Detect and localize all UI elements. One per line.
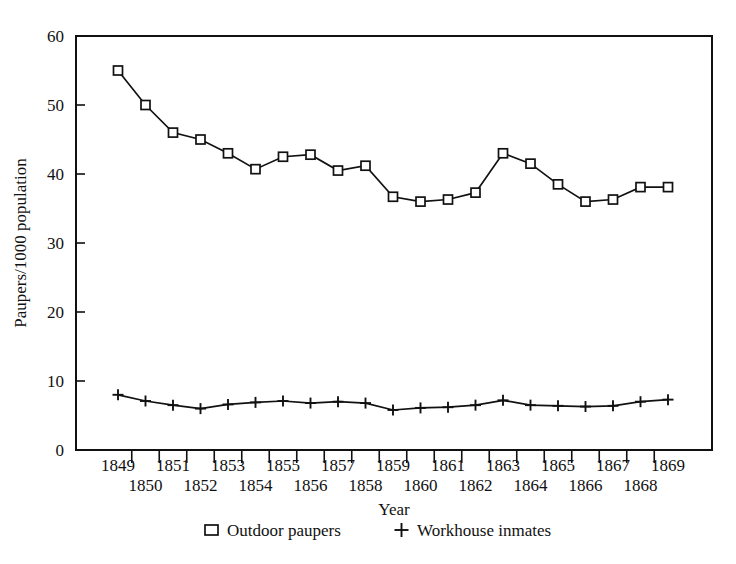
x-tick-label: 1853 bbox=[211, 456, 245, 475]
x-axis-title: Year bbox=[378, 500, 410, 519]
data-point-marker bbox=[169, 128, 178, 137]
chart-figure: 0102030405060 18491850185118521853185418… bbox=[0, 0, 736, 564]
data-point-marker bbox=[636, 183, 645, 192]
y-axis-tick-labels: 0102030405060 bbox=[47, 27, 64, 460]
data-point-marker bbox=[444, 195, 453, 204]
data-point-marker bbox=[114, 66, 123, 75]
x-tick-label: 1862 bbox=[459, 476, 493, 495]
plot-frame bbox=[76, 36, 712, 450]
y-axis-title: Paupers/1000 population bbox=[11, 158, 30, 328]
x-tick-label: 1864 bbox=[514, 476, 549, 495]
data-point-marker bbox=[279, 152, 288, 161]
x-axis-tick-labels: 1849185018511852185318541855185618571858… bbox=[101, 456, 685, 495]
x-tick-label: 1857 bbox=[321, 456, 356, 475]
data-point-marker bbox=[416, 197, 425, 206]
x-tick-label: 1860 bbox=[404, 476, 438, 495]
x-tick-label: 1858 bbox=[349, 476, 383, 495]
y-tick-label: 60 bbox=[47, 27, 64, 46]
x-tick-label: 1855 bbox=[266, 456, 300, 475]
y-tick-label: 0 bbox=[56, 441, 65, 460]
y-axis-ticks bbox=[76, 36, 85, 450]
y-tick-label: 10 bbox=[47, 372, 64, 391]
data-point-marker bbox=[664, 183, 673, 192]
y-tick-label: 20 bbox=[47, 303, 64, 322]
data-series-group bbox=[113, 66, 674, 415]
x-tick-label: 1851 bbox=[156, 456, 190, 475]
x-tick-label: 1866 bbox=[569, 476, 603, 495]
x-tick-label: 1856 bbox=[294, 476, 328, 495]
legend-item[interactable]: Workhouse inmates bbox=[395, 521, 552, 540]
data-point-marker bbox=[581, 197, 590, 206]
x-tick-label: 1869 bbox=[651, 456, 685, 475]
data-point-marker bbox=[389, 192, 398, 201]
x-tick-label: 1849 bbox=[101, 456, 135, 475]
legend-square-marker-icon bbox=[205, 525, 218, 535]
data-point-marker bbox=[554, 180, 563, 189]
x-tick-label: 1867 bbox=[596, 456, 631, 475]
x-tick-label: 1865 bbox=[541, 456, 575, 475]
x-tick-label: 1859 bbox=[376, 456, 410, 475]
x-tick-label: 1852 bbox=[184, 476, 218, 495]
data-point-marker bbox=[361, 161, 370, 170]
line-chart: 0102030405060 18491850185118521853185418… bbox=[0, 0, 736, 564]
data-point-marker bbox=[196, 135, 205, 144]
chart-legend: Outdoor paupersWorkhouse inmates bbox=[205, 521, 551, 540]
data-point-marker bbox=[251, 165, 260, 174]
legend-item[interactable]: Outdoor paupers bbox=[205, 521, 341, 540]
y-tick-label: 50 bbox=[47, 96, 64, 115]
x-tick-label: 1868 bbox=[624, 476, 658, 495]
legend-label: Workhouse inmates bbox=[417, 521, 551, 540]
legend-label: Outdoor paupers bbox=[227, 521, 341, 540]
data-point-marker bbox=[141, 101, 150, 110]
y-tick-label: 40 bbox=[47, 165, 64, 184]
x-tick-label: 1863 bbox=[486, 456, 520, 475]
data-point-marker bbox=[609, 195, 618, 204]
data-point-marker bbox=[471, 188, 480, 197]
data-point-marker bbox=[499, 149, 508, 158]
data-point-marker bbox=[224, 149, 233, 158]
data-point-marker bbox=[526, 159, 535, 168]
y-tick-label: 30 bbox=[47, 234, 64, 253]
data-series bbox=[113, 389, 674, 415]
x-tick-label: 1861 bbox=[431, 456, 465, 475]
x-tick-label: 1854 bbox=[239, 476, 274, 495]
data-series bbox=[114, 66, 673, 206]
x-tick-label: 1850 bbox=[129, 476, 163, 495]
data-point-marker bbox=[306, 150, 315, 159]
data-point-marker bbox=[334, 166, 343, 175]
